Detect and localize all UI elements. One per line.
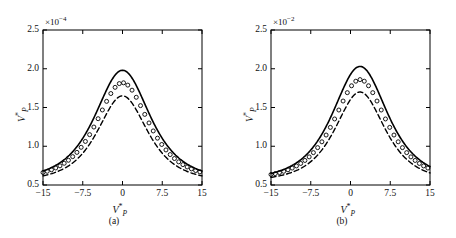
figure-container: ×10−4 V*P V*P (a) 0.51.01.52.02.5−15−7.5… <box>0 0 456 238</box>
y-tick-label: 1.0 <box>239 140 267 150</box>
y-tick-label: 2.5 <box>239 24 267 34</box>
y-tick-label: 2.0 <box>239 63 267 73</box>
x-tick-label: 15 <box>186 188 218 198</box>
y-tick-label: 2.0 <box>11 63 39 73</box>
y-tick-label: 1.0 <box>11 140 39 150</box>
x-tick-label: 7.5 <box>374 188 406 198</box>
x-tick-label: −15 <box>255 188 287 198</box>
y-axis-exponent-b: ×10−2 <box>273 15 295 27</box>
y-tick-label: 2.5 <box>11 24 39 34</box>
x-tick-label: −7.5 <box>295 188 327 198</box>
x-tick-label: −15 <box>27 188 59 198</box>
panel-caption-b: (b) <box>228 216 456 226</box>
x-tick-label: 0 <box>335 188 367 198</box>
y-tick-label: 1.5 <box>11 102 39 112</box>
x-tick-label: 7.5 <box>146 188 178 198</box>
plot-panel-b: ×10−2 V*P V*P (b) 0.51.01.52.02.5−15−7.5… <box>228 0 456 238</box>
plot-panel-a: ×10−4 V*P V*P (a) 0.51.01.52.02.5−15−7.5… <box>0 0 228 238</box>
x-tick-label: 0 <box>107 188 139 198</box>
panel-caption-a: (a) <box>0 216 228 226</box>
y-axis-exponent-a: ×10−4 <box>45 15 67 27</box>
x-tick-label: −7.5 <box>67 188 99 198</box>
x-tick-label: 15 <box>414 188 446 198</box>
y-tick-label: 1.5 <box>239 102 267 112</box>
